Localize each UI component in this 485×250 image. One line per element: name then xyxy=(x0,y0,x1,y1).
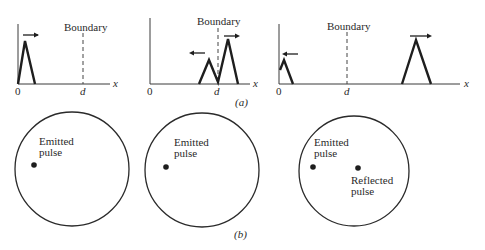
panel-b2: Emitted pulse xyxy=(145,113,259,227)
panel-a2: x 0 d Boundary xyxy=(147,15,258,97)
origin-label: 0 xyxy=(276,85,282,97)
emitted-label-line2: pulse xyxy=(39,146,62,158)
boundary-tick-label: d xyxy=(80,85,86,97)
emitted-pulse-dot xyxy=(310,164,316,170)
x-axis-label: x xyxy=(112,77,118,89)
x-axis-label: x xyxy=(252,77,258,89)
pulse-reflection-figure: x 0 d Boundary x 0 d Boundary x xyxy=(0,0,485,250)
panel-b3: Emitted pulse Reflected pulse xyxy=(299,116,409,226)
boundary-label: Boundary xyxy=(327,20,371,32)
reflected-label-line2: pulse xyxy=(351,185,374,197)
emitted-pulse-dot xyxy=(31,162,37,168)
boundary-label: Boundary xyxy=(64,21,108,33)
emitted-label-line2: pulse xyxy=(174,147,197,159)
part-a-caption: (a) xyxy=(235,96,248,109)
transmitted-pulse xyxy=(402,40,431,84)
boundary-label: Boundary xyxy=(197,15,241,27)
wavefront-circle xyxy=(299,116,409,226)
panel-b1: Emitted pulse xyxy=(15,112,129,226)
reflected-pulse-dot xyxy=(355,165,361,171)
part-b-caption: (b) xyxy=(234,228,247,241)
incident-pulse xyxy=(18,41,35,84)
arrow-left-icon xyxy=(189,51,205,56)
arrow-right-icon xyxy=(410,34,432,39)
reflected-pulse xyxy=(280,60,293,84)
panel-a1: x 0 d Boundary xyxy=(15,21,118,97)
origin-label: 0 xyxy=(15,85,21,97)
arrow-right-icon xyxy=(23,33,39,38)
wavefront-circle xyxy=(145,113,259,227)
origin-label: 0 xyxy=(147,85,153,97)
wavefront-circle xyxy=(15,112,129,226)
arrow-right-icon xyxy=(224,34,240,39)
emitted-label-line2: pulse xyxy=(314,147,337,159)
x-axis-label: x xyxy=(463,77,469,89)
emitted-pulse-dot xyxy=(163,164,169,170)
panel-a3: x 0 d Boundary xyxy=(276,20,469,97)
boundary-tick-label: d xyxy=(214,85,220,97)
boundary-tick-label: d xyxy=(344,85,350,97)
arrow-left-icon xyxy=(282,52,298,57)
